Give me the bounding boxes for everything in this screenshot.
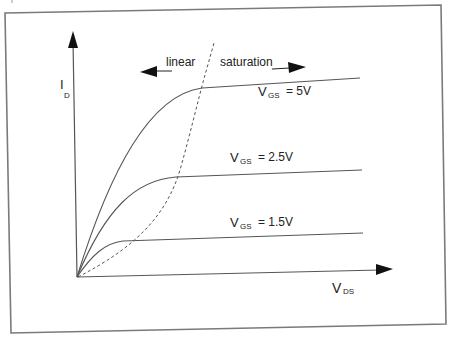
svg-text:= 1.5V: = 1.5V [258,215,293,229]
y-axis-label: I [60,77,64,92]
svg-text:GS: GS [240,157,252,166]
x-axis-subscript: DS [343,287,354,296]
svg-text:GS: GS [268,91,280,100]
curve-vgs-5v [77,78,360,277]
svg-text:V: V [258,84,267,99]
linear-saturation-boundary [78,43,214,277]
y-axis [68,31,78,277]
label-vgs-1.5v: V GS = 1.5V [230,215,293,231]
x-axis [77,264,393,277]
svg-text:= 2.5V: = 2.5V [258,150,293,164]
saturation-label: saturation [220,55,273,69]
linear-arrow-icon [140,66,157,77]
saturation-arrow-icon [288,62,306,73]
svg-text:= 5V: = 5V [286,84,311,98]
curve-vgs-1.5v [77,233,363,277]
label-vgs-5v: V GS = 5V [258,84,311,100]
x-axis-arrow-icon [376,264,393,275]
svg-text:GS: GS [240,222,252,231]
svg-text:V: V [230,150,239,165]
curve-vgs-2.5v [77,170,362,277]
linear-label: linear [166,55,195,69]
x-axis-label: V [332,280,342,296]
y-axis-subscript: D [64,91,70,100]
label-vgs-2.5v: V GS = 2.5V [230,150,293,166]
y-axis-arrow-icon [68,31,78,48]
mosfet-iv-diagram: I D V DS linear saturation V GS = 5V V G… [0,0,454,337]
svg-text:V: V [230,215,239,230]
